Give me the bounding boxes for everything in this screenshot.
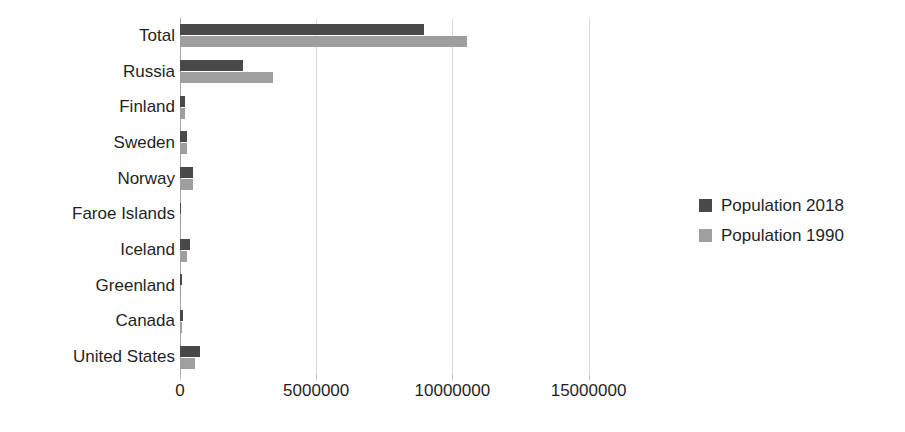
category-label: Greenland: [7, 277, 175, 294]
bar-1990[interactable]: [180, 286, 181, 297]
bar-2018[interactable]: [180, 131, 187, 142]
axis-tick: [452, 375, 453, 380]
chart-legend: Population 2018 Population 1990: [699, 190, 844, 250]
bar-group: [180, 232, 643, 268]
bar-1990[interactable]: [180, 358, 195, 369]
bar-1990[interactable]: [180, 251, 187, 262]
bar-2018[interactable]: [180, 60, 243, 71]
legend-item-population-1990[interactable]: Population 1990: [699, 220, 844, 250]
legend-swatch-icon: [699, 229, 712, 242]
category-label: Russia: [7, 63, 175, 80]
bar-2018[interactable]: [180, 239, 190, 250]
category-label: Faroe Islands: [7, 205, 175, 222]
plot-area: [180, 18, 643, 375]
value-tick-label: 5000000: [283, 381, 349, 401]
legend-item-label: Population 1990: [721, 227, 844, 244]
value-tick-label: 0: [175, 381, 184, 401]
category-label: United States: [7, 348, 175, 365]
category-axis-labels: TotalRussiaFinlandSwedenNorwayFaroe Isla…: [0, 18, 175, 375]
bar-group: [180, 339, 643, 375]
legend-swatch-icon: [699, 199, 712, 212]
bar-1990[interactable]: [180, 322, 182, 333]
category-label: Norway: [7, 170, 175, 187]
bar-group: [180, 125, 643, 161]
bar-2018[interactable]: [180, 96, 185, 107]
bar-group: [180, 304, 643, 340]
value-tick-label: 10000000: [415, 381, 491, 401]
category-label: Sweden: [7, 134, 175, 151]
axis-tick: [180, 375, 181, 380]
bar-2018[interactable]: [180, 167, 193, 178]
value-tick-label: 15000000: [551, 381, 627, 401]
bar-group: [180, 18, 643, 54]
axis-tick: [589, 375, 590, 380]
bar-1990[interactable]: [180, 215, 181, 226]
category-label: Finland: [7, 98, 175, 115]
bar-group: [180, 268, 643, 304]
bar-1990[interactable]: [180, 143, 187, 154]
category-label: Iceland: [7, 241, 175, 258]
category-label: Total: [7, 27, 175, 44]
bar-2018[interactable]: [180, 346, 200, 357]
bar-1990[interactable]: [180, 108, 185, 119]
axis-tick: [316, 375, 317, 380]
bar-group: [180, 54, 643, 90]
bar-2018[interactable]: [180, 24, 424, 35]
bar-2018[interactable]: [180, 203, 181, 214]
legend-item-population-2018[interactable]: Population 2018: [699, 190, 844, 220]
value-axis-labels: 050000001000000015000000: [0, 381, 905, 407]
bar-group: [180, 89, 643, 125]
legend-item-label: Population 2018: [721, 197, 844, 214]
bar-1990[interactable]: [180, 36, 467, 47]
bar-2018[interactable]: [180, 274, 182, 285]
bar-1990[interactable]: [180, 72, 273, 83]
bar-chart: TotalRussiaFinlandSwedenNorwayFaroe Isla…: [0, 0, 905, 432]
bar-1990[interactable]: [180, 179, 193, 190]
category-label: Canada: [7, 312, 175, 329]
bar-group: [180, 161, 643, 197]
bar-group: [180, 197, 643, 233]
bar-2018[interactable]: [180, 310, 183, 321]
